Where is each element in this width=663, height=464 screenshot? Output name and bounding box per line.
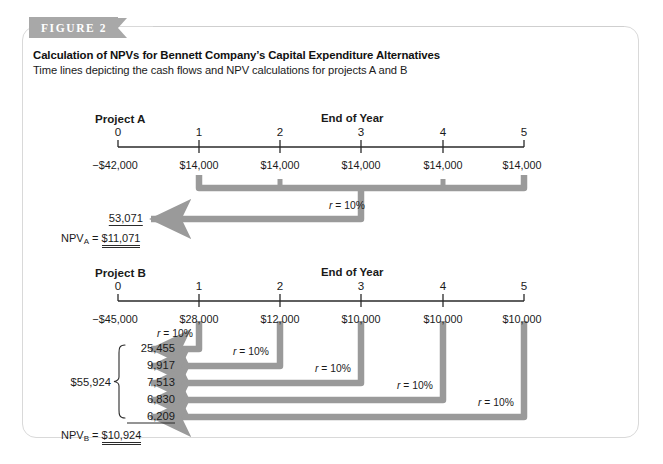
project-b-discounted-value-5: 6,209 — [147, 411, 175, 422]
project-b-year-5: 5 — [521, 280, 527, 292]
project-b-rate-label-1: r = 10% — [157, 329, 193, 339]
project-a-present-value: 53,071 — [109, 213, 143, 226]
project-a-cashflow-4: $14,000 — [423, 160, 462, 171]
project-a-npv-label: NPV — [61, 232, 84, 244]
project-a-year-0: 0 — [115, 126, 121, 138]
project-a-year-2: 2 — [277, 126, 283, 138]
project-b-rate-label-2: r = 10% — [233, 347, 269, 357]
project-b-year-3: 3 — [358, 280, 364, 292]
project-b-cashflow-4: $10,000 — [423, 314, 462, 325]
project-b-rate-label-5: r = 10% — [478, 398, 514, 408]
project-b-name: Project B — [95, 267, 146, 279]
project-a-year-3: 3 — [358, 126, 364, 138]
project-a-cashflow-5: $14,000 — [502, 160, 541, 171]
project-b-npv-equals: = — [89, 429, 102, 441]
project-b-rate-value-2: = 10% — [236, 346, 268, 357]
project-b-end-of-year-label: End of Year — [321, 267, 383, 278]
project-a-npv-line: NPVA = $11,071 — [61, 233, 140, 246]
project-b-discounted-value-1: 25,455 — [141, 343, 175, 354]
project-a-cashflow-3: $14,000 — [341, 160, 380, 171]
project-b-npv-line: NPVB = $10,924 — [61, 430, 141, 443]
project-a-cashflow-2: $14,000 — [260, 160, 299, 171]
project-b-year-4: 4 — [440, 280, 446, 292]
project-b-rate-value-4: = 10% — [400, 380, 432, 391]
project-b-rate-label-3: r = 10% — [315, 364, 351, 374]
project-b-year-2: 2 — [277, 280, 283, 292]
figure-card: FIGURE 2 Calculation of NPVs for Bennett… — [22, 26, 639, 438]
project-b-cashflow-0: −$45,000 — [92, 314, 137, 325]
project-b-discounted-value-3: 7,513 — [147, 377, 175, 388]
project-a-end-of-year-label: End of Year — [321, 113, 383, 124]
project-a-cashflow-1: $14,000 — [179, 160, 218, 171]
project-b-cashflow-5: $10,000 — [502, 314, 541, 325]
figure-text-layer: Project A End of Year 0 1 2 3 4 5 −$42,0… — [23, 27, 640, 439]
project-b-rate-label-4: r = 10% — [397, 381, 433, 391]
project-a-year-5: 5 — [521, 126, 527, 138]
project-a-rate-value: = 10% — [332, 200, 364, 211]
project-b-total-present-value: $55,924 — [71, 377, 111, 388]
project-a-rate-label: r = 10% — [329, 201, 365, 211]
project-b-year-0: 0 — [115, 280, 121, 292]
project-b-cashflow-1: $28,000 — [179, 314, 218, 325]
project-b-discounted-value-2: 9,917 — [147, 360, 175, 371]
project-a-cashflow-0: −$42,000 — [92, 160, 137, 171]
project-a-npv-equals: = — [89, 232, 102, 244]
project-b-year-1: 1 — [196, 280, 202, 292]
project-b-npv-value: $10,924 — [102, 429, 142, 445]
project-b-cashflow-3: $10,000 — [341, 314, 380, 325]
project-b-npv-label: NPV — [61, 429, 84, 441]
project-a-npv-value: $11,071 — [102, 232, 141, 248]
project-b-cashflow-2: $12,000 — [260, 314, 299, 325]
project-a-year-4: 4 — [440, 126, 446, 138]
project-b-rate-value-1: = 10% — [160, 328, 192, 339]
project-b-discounted-value-4: 6,830 — [147, 394, 175, 405]
project-a-name: Project A — [95, 113, 145, 125]
project-b-rate-value-5: = 10% — [481, 397, 513, 408]
project-b-rate-value-3: = 10% — [318, 363, 350, 374]
project-a-year-1: 1 — [196, 126, 202, 138]
